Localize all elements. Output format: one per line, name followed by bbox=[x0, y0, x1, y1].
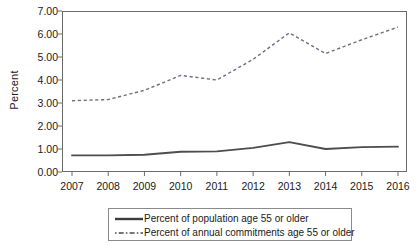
chart-legend: Percent of population age 55 or older Pe… bbox=[108, 208, 352, 241]
x-axis-tick-label: 2008 bbox=[88, 180, 128, 192]
chart-figure: Percent 0.001.002.003.004.005.006.007.00… bbox=[0, 0, 418, 249]
x-axis-tick-label: 2009 bbox=[124, 180, 164, 192]
series-line-population bbox=[72, 142, 398, 155]
plot-lines bbox=[62, 11, 407, 172]
y-axis-tick-label: 5.00 bbox=[22, 52, 58, 62]
x-axis-tick-label: 2014 bbox=[306, 180, 346, 192]
legend-swatch-solid-line-icon bbox=[114, 213, 144, 225]
y-axis-tick-label: 0.00 bbox=[22, 167, 58, 177]
legend-label-population: Percent of population age 55 or older bbox=[144, 213, 309, 225]
x-axis-tick-label: 2011 bbox=[197, 180, 237, 192]
y-axis-tick-label: 7.00 bbox=[22, 6, 58, 16]
y-axis-tick-label: 1.00 bbox=[22, 144, 58, 154]
x-axis-tick-label: 2013 bbox=[269, 180, 309, 192]
x-axis-tick-label: 2015 bbox=[342, 180, 382, 192]
legend-label-commitments: Percent of annual commitments age 55 or … bbox=[144, 227, 355, 239]
x-axis-tick-label: 2016 bbox=[378, 180, 418, 192]
x-axis-tick-label: 2007 bbox=[52, 180, 92, 192]
legend-item-population: Percent of population age 55 or older bbox=[114, 212, 347, 225]
series-line-commitments bbox=[72, 27, 398, 101]
legend-item-commitments: Percent of annual commitments age 55 or … bbox=[114, 226, 347, 239]
y-axis-tick-label: 3.00 bbox=[22, 98, 58, 108]
y-axis-tick-label: 4.00 bbox=[22, 75, 58, 85]
y-axis-tick-label: 6.00 bbox=[22, 29, 58, 39]
x-axis-tick-label: 2010 bbox=[161, 180, 201, 192]
legend-swatch-dashed-line-icon bbox=[114, 227, 144, 239]
y-axis-tick-label: 2.00 bbox=[22, 121, 58, 131]
y-axis-tick-labels: 0.001.002.003.004.005.006.007.00 bbox=[18, 0, 58, 249]
x-axis-tick-label: 2012 bbox=[233, 180, 273, 192]
